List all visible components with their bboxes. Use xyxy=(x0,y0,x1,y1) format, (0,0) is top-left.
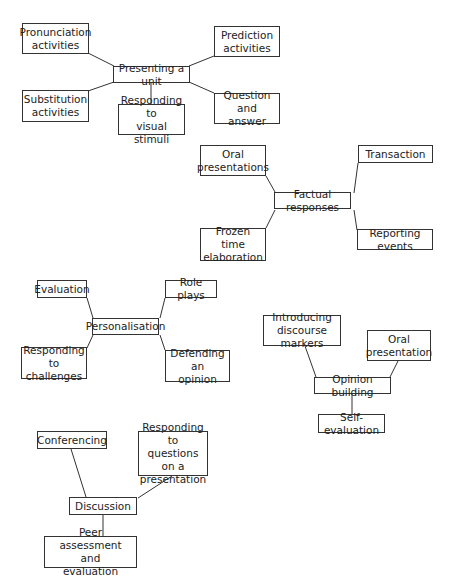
connector-line xyxy=(160,335,165,350)
connector-line xyxy=(71,449,86,497)
connector-line xyxy=(88,82,114,91)
hub-node-discussion: Discussion xyxy=(69,497,137,515)
branch-node-introducing-discourse-markers: Introducing discourse markers xyxy=(263,315,341,346)
branch-node-conferencing: Conferencing xyxy=(37,431,107,449)
branch-node-prediction-activities: Prediction activities xyxy=(214,26,280,57)
branch-node-question-and-answer: Question and answer xyxy=(214,93,280,124)
branch-node-self-evaluation: Self-evaluation xyxy=(318,414,385,433)
connector-line xyxy=(390,361,398,377)
hub-node-presenting-a-unit: Presenting a unit xyxy=(113,66,190,83)
branch-node-role-plays: Role plays xyxy=(165,280,217,298)
hub-node-opinion-building: Opinion building xyxy=(314,377,391,394)
branch-node-pronunciation-activities: Pronunciation activities xyxy=(22,23,89,54)
connector-line xyxy=(88,53,114,66)
branch-node-oral-presentations: Oral presentations xyxy=(200,145,266,176)
branch-node-transaction: Transaction xyxy=(358,145,433,163)
connector-line xyxy=(87,298,93,318)
connector-line xyxy=(160,298,165,318)
hub-node-factual-responses: Factual responses xyxy=(274,192,351,209)
mind-map-diagram: Presenting a unitPronunciation activitie… xyxy=(0,0,458,584)
branch-node-substitution-activities: Substitution activities xyxy=(22,90,89,122)
hub-node-personalisation: Personalisation xyxy=(92,318,159,335)
branch-node-frozen-time-elaboration: Frozen time elaboration xyxy=(200,228,266,261)
branch-node-responding-to-challenges: Responding to challenges xyxy=(21,347,87,379)
branch-node-responding-to-visual-stimuli: Responding to visual stimuli xyxy=(118,104,185,135)
connector-line xyxy=(189,56,214,66)
branch-node-responding-to-questions-on-a-presentation: Responding to questions on a presentatio… xyxy=(138,431,208,476)
branch-node-peer-assessment-and-evaluation: Peer assessment and evaluation xyxy=(44,536,137,568)
connector-line xyxy=(354,210,357,230)
branch-node-evaluation: Evaluation xyxy=(37,280,87,298)
connector-line xyxy=(266,210,275,228)
connector-line xyxy=(354,163,358,193)
connector-line xyxy=(87,335,93,348)
branch-node-oral-presentation: Oral presentation xyxy=(367,330,431,361)
connector-line xyxy=(305,346,316,377)
connector-line xyxy=(189,82,214,93)
branch-node-defending-an-opinion: Defending an opinion xyxy=(165,350,230,382)
connector-line xyxy=(266,176,275,192)
branch-node-reporting-events: Reporting events xyxy=(357,229,433,250)
